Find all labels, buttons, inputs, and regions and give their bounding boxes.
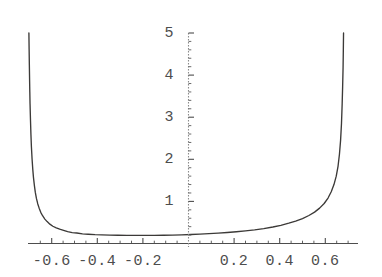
x-tick-label: -0.6 — [33, 254, 71, 269]
x-tick-label: -0.4 — [78, 254, 116, 269]
y-axis-group — [189, 33, 195, 247]
y-tick-label: 2 — [160, 152, 174, 167]
x-tick-label: 0.2 — [220, 254, 249, 269]
plot-curve-group — [29, 33, 344, 235]
plot-screenshot: -0.6-0.4-0.20.20.40.6 12345 — [0, 0, 382, 277]
y-tick-label: 3 — [160, 110, 174, 125]
y-tick-label: 4 — [160, 68, 174, 83]
curve-path — [29, 33, 344, 235]
x-axis-group — [28, 238, 358, 244]
x-tick-label: 0.4 — [265, 254, 294, 269]
y-tick-label: 1 — [160, 194, 174, 209]
x-tick-label: 0.6 — [311, 254, 340, 269]
x-tick-label: -0.2 — [124, 254, 162, 269]
plot-canvas — [0, 0, 382, 277]
y-tick-label: 5 — [160, 26, 174, 41]
